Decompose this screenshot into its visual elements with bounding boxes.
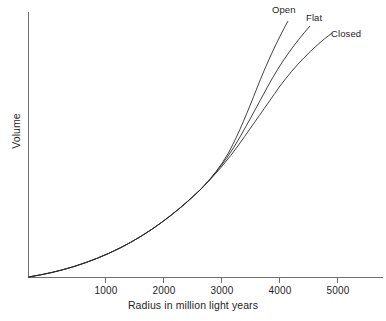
- x-tick-label-3000: 3000: [210, 285, 233, 296]
- x-tick-label-1000: 1000: [94, 285, 117, 296]
- x-tick-label-4000: 4000: [268, 285, 291, 296]
- curve-flat: [29, 26, 311, 277]
- x-tick-label-5000: 5000: [326, 285, 349, 296]
- series-label-open: Open: [272, 4, 296, 15]
- curve-open: [29, 21, 289, 277]
- x-tick-label-2000: 2000: [152, 285, 175, 296]
- x-axis-title: Radius in million light years: [0, 299, 386, 311]
- curve-closed: [29, 33, 333, 277]
- chart-container: Open Flat Closed 1000 2000 3000 4000 500…: [0, 0, 386, 321]
- plot-area: [0, 0, 386, 321]
- series-label-flat: Flat: [306, 12, 322, 23]
- y-axis-title: Volume: [10, 101, 22, 161]
- series-label-closed: Closed: [331, 28, 361, 39]
